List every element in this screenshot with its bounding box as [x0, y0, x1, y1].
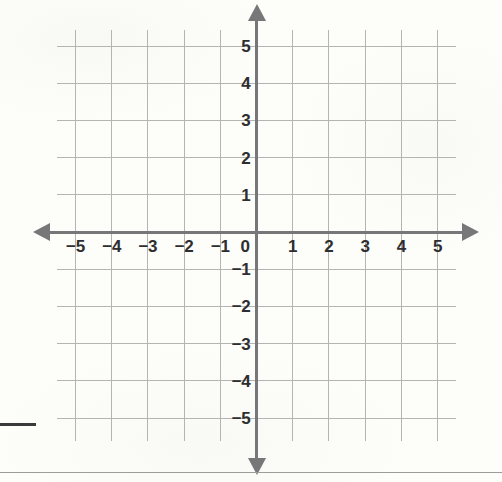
- x-axis-tick-label: −5: [66, 238, 85, 255]
- origin-label: 0: [241, 238, 250, 255]
- y-axis-tick-label: 1: [241, 186, 250, 203]
- y-axis-tick-label: 5: [241, 38, 250, 55]
- x-axis-tick-label: −3: [138, 238, 157, 255]
- x-axis-tick-label: 1: [288, 238, 297, 255]
- y-axis-tick-label: −2: [232, 298, 251, 315]
- x-axis-tick-label: 5: [433, 238, 442, 255]
- x-axis-tick-label: −4: [102, 238, 121, 255]
- x-axis-right-arrow-icon: [462, 223, 479, 241]
- y-axis-tick-label: −1: [232, 261, 251, 278]
- x-axis-tick-label: 2: [324, 238, 333, 255]
- worksheet-page: −5−4−3−2−11234554321−1−2−3−4−50: [0, 0, 502, 482]
- x-axis-tick-label: −2: [175, 238, 194, 255]
- y-axis-up-arrow-icon: [248, 4, 266, 21]
- left-dash-mark: [0, 423, 36, 426]
- x-axis-tick-label: 3: [361, 238, 370, 255]
- y-axis-tick-label: −4: [232, 372, 251, 389]
- x-axis-tick-label: 4: [397, 238, 406, 255]
- x-axis-left-arrow-icon: [33, 223, 50, 241]
- x-axis-tick-label: −1: [211, 238, 230, 255]
- coordinate-grid: −5−4−3−2−11234554321−1−2−3−4−50: [0, 0, 502, 482]
- y-axis-tick-label: 2: [241, 149, 250, 166]
- y-axis-tick-label: 3: [241, 112, 250, 129]
- y-axis-tick-label: 4: [241, 75, 250, 92]
- bottom-divider-rule: [0, 472, 502, 473]
- y-axis-tick-label: −3: [232, 335, 251, 352]
- y-axis-tick-label: −5: [232, 410, 251, 427]
- y-axis-line: [255, 20, 258, 458]
